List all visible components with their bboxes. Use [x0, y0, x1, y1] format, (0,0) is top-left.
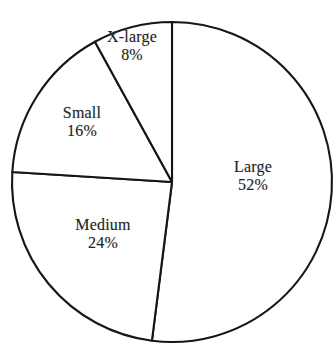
- pie-label-large-name: Large: [204, 158, 302, 176]
- pie-label-large-value: 52%: [204, 176, 302, 194]
- pie-label-small: Small 16%: [36, 104, 128, 140]
- pie-label-small-name: Small: [36, 104, 128, 122]
- pie-label-xlarge-value: 8%: [86, 46, 178, 64]
- pie-label-xlarge-name: X-large: [86, 28, 178, 46]
- pie-slice-medium[interactable]: [12, 172, 172, 341]
- pie-label-medium: Medium 24%: [44, 216, 162, 252]
- pie-label-large: Large 52%: [204, 158, 302, 194]
- pie-label-small-value: 16%: [36, 122, 128, 140]
- pie-label-medium-name: Medium: [44, 216, 162, 234]
- pie-label-medium-value: 24%: [44, 234, 162, 252]
- pie-label-xlarge: X-large 8%: [86, 28, 178, 64]
- pie-chart-figure: X-large 8% Small 16% Large 52% Medium 24…: [0, 0, 336, 364]
